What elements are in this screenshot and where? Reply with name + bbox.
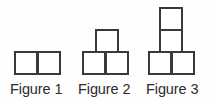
figure-2-square-top [95, 29, 119, 53]
figure-2-square-bottom-left [82, 51, 106, 75]
figure-2-label: Figure 2 [78, 80, 130, 98]
figure-3-square-middle [159, 29, 183, 53]
figure-3-square-bottom-left [148, 51, 172, 75]
figure-3-square-bottom-right [171, 51, 195, 75]
figure-pattern-diagram: Figure 1 Figure 2 Figure 3 [0, 0, 213, 102]
figure-1-label: Figure 1 [10, 80, 62, 98]
figure-1-square-bottom-left [14, 51, 38, 75]
figure-1-square-bottom-right [37, 51, 61, 75]
figure-3-square-top [159, 7, 183, 31]
figure-2-square-bottom-right [105, 51, 129, 75]
figure-3-label: Figure 3 [146, 80, 198, 98]
